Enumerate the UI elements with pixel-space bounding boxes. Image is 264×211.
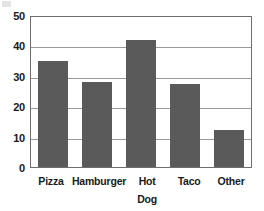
bar-slot (163, 17, 207, 167)
y-tick-label: 30 (13, 72, 25, 83)
y-tick-label: 10 (13, 133, 25, 144)
bar-slot (75, 17, 119, 167)
x-label-slot: Hot Dog (126, 171, 168, 207)
x-tick-label-hamburger: Hamburger (72, 175, 126, 187)
x-label-slot: Hamburger (72, 171, 126, 207)
y-axis: 50 40 30 20 10 0 (0, 0, 28, 211)
y-tick-label: 40 (13, 41, 25, 52)
x-tick-label-taco: Taco (178, 175, 201, 187)
bar-slot (31, 17, 75, 167)
plot-area (30, 16, 252, 168)
bar-pizza[interactable] (38, 61, 67, 167)
x-tick-label-other: Other (218, 175, 245, 187)
bar-other[interactable] (214, 130, 243, 167)
bar-slot (119, 17, 163, 167)
bar-hot-dog[interactable] (126, 40, 155, 167)
x-label-slot: Taco (168, 171, 210, 207)
y-tick-label: 0 (19, 163, 25, 174)
bars-layer (31, 17, 251, 167)
x-label-slot: Other (210, 171, 252, 207)
x-tick-label-pizza: Pizza (38, 175, 63, 187)
bar-chart-figure: 50 40 30 20 10 0 (0, 0, 264, 211)
y-tick-label: 50 (13, 11, 25, 22)
bar-slot (207, 17, 251, 167)
bar-taco[interactable] (170, 84, 199, 167)
bar-hamburger[interactable] (82, 82, 111, 167)
x-label-slot: Pizza (30, 171, 72, 207)
x-axis: Pizza Hamburger Hot Dog Taco Other (30, 171, 252, 207)
y-tick-label: 20 (13, 102, 25, 113)
x-tick-label-hot-dog: Hot Dog (137, 175, 157, 205)
